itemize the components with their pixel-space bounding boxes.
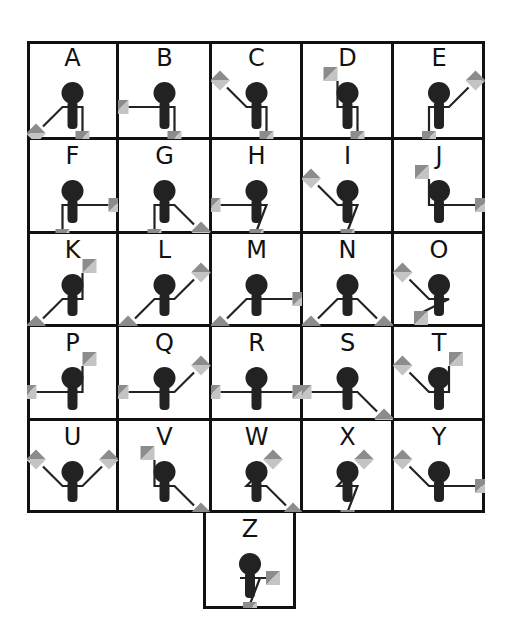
- semaphore-figure-icon: [393, 233, 485, 326]
- letter-cell-r: R: [211, 326, 302, 420]
- semaphore-chart: ABCDEFGHIJKLMNOPQRSTUVWXYZ: [0, 0, 511, 634]
- semaphore-figure-icon: [393, 326, 485, 420]
- flag-icon: [118, 100, 129, 114]
- flag-icon: [27, 385, 37, 399]
- flag-icon: [293, 292, 303, 306]
- letter-cell-w: W: [211, 420, 302, 512]
- flag-icon: [260, 131, 274, 139]
- flag-icon: [76, 131, 90, 139]
- letter-cell-e: E: [393, 41, 485, 139]
- flag-icon: [266, 571, 280, 585]
- flag-icon: [263, 450, 283, 470]
- flag-icon: [302, 169, 321, 189]
- flag-icon: [211, 198, 221, 212]
- semaphore-figure-icon: [393, 139, 485, 233]
- letter-cell-b: B: [118, 41, 211, 139]
- letter-cell-y: Y: [393, 420, 485, 512]
- letter-cell-z: Z: [205, 512, 295, 608]
- semaphore-figure-icon: [27, 233, 118, 326]
- letter-cell-x: X: [302, 420, 393, 512]
- flag-icon: [393, 356, 412, 376]
- flag-icon: [118, 385, 129, 399]
- semaphore-figure-icon: [27, 326, 118, 420]
- flag-icon: [393, 263, 412, 283]
- flag-icon: [449, 352, 463, 366]
- semaphore-figure-icon: [211, 41, 302, 139]
- flag-icon: [141, 446, 155, 460]
- semaphore-figure-icon: [27, 41, 118, 139]
- letter-cell-d: D: [302, 41, 393, 139]
- flag-icon: [191, 263, 211, 283]
- semaphore-figure-icon: [302, 41, 393, 139]
- letter-cell-v: V: [118, 420, 211, 512]
- flag-icon: [415, 165, 429, 179]
- letter-cell-c: C: [211, 41, 302, 139]
- semaphore-figure-icon: [302, 139, 393, 233]
- semaphore-figure-icon: [205, 512, 295, 608]
- flag-icon: [83, 259, 97, 273]
- letter-cell-m: M: [211, 233, 302, 326]
- flag-icon: [99, 450, 118, 470]
- letter-cell-p: P: [27, 326, 118, 420]
- flag-icon: [341, 510, 355, 512]
- semaphore-figure-icon: [302, 420, 393, 512]
- semaphore-figure-icon: [118, 326, 211, 420]
- flag-icon: [191, 356, 211, 376]
- flag-icon: [414, 311, 428, 325]
- semaphore-figure-icon: [118, 420, 211, 512]
- flag-icon: [83, 352, 97, 366]
- flag-icon: [211, 385, 221, 399]
- letter-cell-o: O: [393, 233, 485, 326]
- letter-cell-u: U: [27, 420, 118, 512]
- letter-cell-a: A: [27, 41, 118, 139]
- letter-cell-s: S: [302, 326, 393, 420]
- flag-icon: [243, 602, 257, 608]
- flag-icon: [475, 198, 485, 212]
- semaphore-figure-icon: [211, 326, 302, 420]
- flag-icon: [168, 131, 182, 139]
- flag-icon: [293, 385, 303, 399]
- flag-icon: [466, 71, 485, 91]
- semaphore-figure-icon: [118, 41, 211, 139]
- semaphore-figure-icon: [118, 233, 211, 326]
- letter-cell-l: L: [118, 233, 211, 326]
- flag-icon: [324, 67, 338, 81]
- letter-cell-h: H: [211, 139, 302, 233]
- semaphore-figure-icon: [211, 233, 302, 326]
- flag-icon: [351, 131, 365, 139]
- flag-icon: [422, 131, 436, 139]
- letter-cell-n: N: [302, 233, 393, 326]
- flag-icon: [393, 450, 412, 470]
- flag-icon: [475, 479, 485, 493]
- semaphore-figure-icon: [302, 326, 393, 420]
- semaphore-figure-icon: [27, 139, 118, 233]
- semaphore-figure-icon: [211, 420, 302, 512]
- letter-cell-j: J: [393, 139, 485, 233]
- letter-cell-t: T: [393, 326, 485, 420]
- flag-icon: [109, 198, 119, 212]
- flag-icon: [27, 450, 46, 470]
- letter-cell-k: K: [27, 233, 118, 326]
- semaphore-figure-icon: [118, 139, 211, 233]
- flag-icon: [191, 503, 211, 512]
- letter-cell-g: G: [118, 139, 211, 233]
- semaphore-figure-icon: [393, 41, 485, 139]
- semaphore-figure-icon: [302, 233, 393, 326]
- flag-icon: [211, 71, 230, 91]
- flag-icon: [354, 450, 374, 470]
- semaphore-figure-icon: [211, 139, 302, 233]
- letter-cell-q: Q: [118, 326, 211, 420]
- letter-cell-i: I: [302, 139, 393, 233]
- flag-icon: [302, 385, 312, 399]
- letter-cell-f: F: [27, 139, 118, 233]
- semaphore-figure-icon: [393, 420, 485, 512]
- semaphore-figure-icon: [27, 420, 118, 512]
